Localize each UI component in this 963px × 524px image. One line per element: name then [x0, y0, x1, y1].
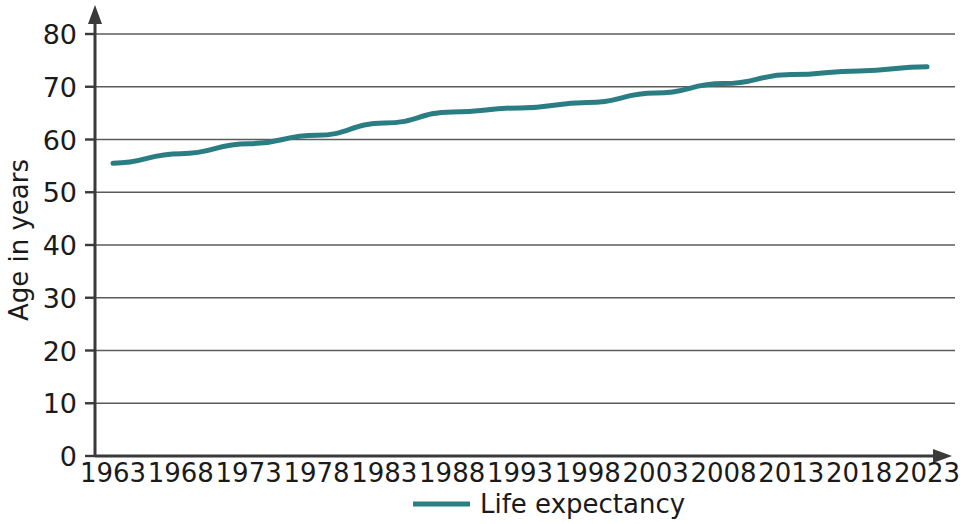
- line-chart: 01020304050607080 1963196819731978198319…: [0, 0, 963, 524]
- x-tick-label: 1998: [555, 458, 621, 488]
- y-tick-label: 10: [43, 388, 77, 419]
- series-line-path: [113, 67, 927, 164]
- y-tick-label: 30: [43, 283, 77, 314]
- x-tick-labels: 1963196819731978198319881993199820032008…: [80, 458, 960, 488]
- legend: Life expectancy: [413, 489, 685, 519]
- x-tick-label: 2023: [894, 458, 960, 488]
- y-tick-label: 0: [60, 441, 77, 472]
- x-tick-label: 2003: [623, 458, 689, 488]
- x-tick-label: 1973: [216, 458, 282, 488]
- x-tick-label: 1963: [80, 458, 146, 488]
- y-axis-title-text: Age in years: [4, 159, 34, 321]
- y-tick-label: 70: [43, 72, 77, 103]
- x-tick-label: 1983: [351, 458, 417, 488]
- y-tick-labels: 01020304050607080: [43, 19, 77, 472]
- x-tick-label: 1968: [148, 458, 214, 488]
- y-tick-label: 20: [43, 336, 77, 367]
- chart-canvas: 01020304050607080 1963196819731978198319…: [0, 0, 963, 524]
- y-tick-label: 50: [43, 177, 77, 208]
- x-tick-label: 2018: [826, 458, 892, 488]
- y-axis-arrow-icon: [88, 5, 102, 24]
- gridlines: [95, 34, 955, 403]
- series-life-expectancy: [113, 67, 927, 164]
- x-tick-label: 2008: [690, 458, 756, 488]
- y-axis: [88, 5, 102, 456]
- y-tick-label: 40: [43, 230, 77, 261]
- y-tick-label: 80: [43, 19, 77, 50]
- y-tick-label: 60: [43, 125, 77, 156]
- y-axis-title: Age in years: [4, 159, 34, 321]
- x-tick-label: 1988: [419, 458, 485, 488]
- x-tick-label: 2013: [758, 458, 824, 488]
- legend-label-life-expectancy: Life expectancy: [480, 489, 685, 519]
- x-tick-label: 1993: [487, 458, 553, 488]
- x-tick-label: 1978: [283, 458, 349, 488]
